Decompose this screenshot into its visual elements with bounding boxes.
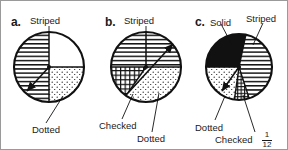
panel-a: a. Striped Dotted	[1, 1, 97, 149]
panel-a-pie	[1, 1, 97, 149]
panel-c-leader-dotted	[215, 96, 225, 120]
panel-c: c. Solid Striped Dotted Checked 1 12	[193, 1, 287, 149]
figure-frame: a. Striped Dotted	[0, 0, 288, 150]
panel-b: b. Striped Checked Dotted	[97, 1, 193, 149]
panel-b-pie	[97, 1, 193, 149]
panel-b-center-dot	[144, 65, 148, 69]
panel-c-leader-checked	[243, 95, 255, 132]
panel-c-pie	[193, 1, 287, 149]
